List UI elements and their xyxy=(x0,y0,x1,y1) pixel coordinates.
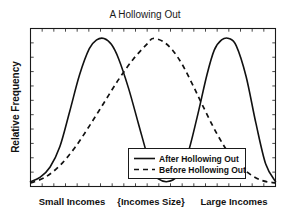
chart-legend: After Hollowing Out Before Hollowing Out xyxy=(129,149,247,179)
legend-label-before: Before Hollowing Out xyxy=(159,165,246,175)
x-axis-tick-labels: Small Incomes {Incomes Size} Large Incom… xyxy=(39,196,268,207)
y-axis-label: Relative Frequency xyxy=(10,61,21,153)
x-tick-label-small-incomes: Small Incomes xyxy=(39,196,106,207)
x-tick-label-incomes-size: {Incomes Size} xyxy=(117,196,185,207)
chart-canvas: A Hollowing Out Relative Frequency After… xyxy=(0,0,290,222)
chart-figure: A Hollowing Out Relative Frequency After… xyxy=(0,0,290,222)
chart-title: A Hollowing Out xyxy=(109,9,180,20)
legend-label-after: After Hollowing Out xyxy=(159,154,239,164)
x-tick-label-large-incomes: Large Incomes xyxy=(200,196,267,207)
figure-background xyxy=(0,0,290,222)
